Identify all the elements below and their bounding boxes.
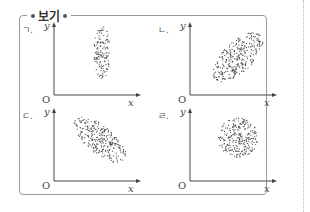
scatter-plot <box>158 22 278 107</box>
panel-label: ㄱ. <box>22 23 33 36</box>
origin-label: O <box>178 180 186 191</box>
scatter-plot <box>22 108 142 193</box>
y-axis-label: y <box>180 20 186 31</box>
origin-label: O <box>178 94 186 105</box>
scatter-panel-b: ㄴ. y x O <box>158 22 278 107</box>
x-axis-label: x <box>264 97 270 108</box>
page-margin-dotted-line <box>303 0 304 212</box>
y-axis-label: y <box>44 106 50 117</box>
scatter-panel-d: ㄹ. y x O <box>158 108 278 193</box>
scatter-plot <box>22 22 142 107</box>
panel-label: ㄹ. <box>158 109 169 122</box>
x-axis-label: x <box>128 183 134 194</box>
panel-label: ㄴ. <box>158 23 169 36</box>
panel-label: ㄷ. <box>22 109 33 122</box>
origin-label: O <box>42 180 50 191</box>
x-axis-label: x <box>128 97 134 108</box>
bullet-icon <box>31 14 35 18</box>
x-axis-label: x <box>264 183 270 194</box>
scatter-panel-a: ㄱ. y x O <box>22 22 142 107</box>
origin-label: O <box>42 94 50 105</box>
y-axis-label: y <box>180 106 186 117</box>
y-axis-label: y <box>44 20 50 31</box>
bullet-icon <box>63 14 67 18</box>
scatter-panel-c: ㄷ. y x O <box>22 108 142 193</box>
scatter-plot <box>158 108 278 193</box>
